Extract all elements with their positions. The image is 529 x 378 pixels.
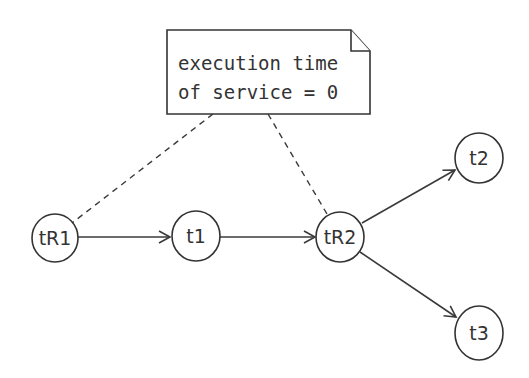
node-label-t2: t2: [469, 147, 489, 169]
note-line-2: of service = 0: [178, 81, 338, 103]
node-t3: t3: [455, 306, 503, 360]
node-t2: t2: [455, 133, 503, 183]
note: execution time of service = 0: [167, 30, 370, 114]
node-label-t3: t3: [469, 322, 489, 344]
diagram-canvas: execution time of service = 0 tR1 t1 tR2…: [0, 0, 529, 378]
node-tR1: tR1: [32, 214, 78, 262]
note-connector-tR2: [268, 114, 327, 214]
node-label-tR1: tR1: [39, 227, 72, 249]
node-t1: t1: [172, 211, 220, 261]
note-line-1: execution time: [178, 52, 338, 74]
node-label-t1: t1: [186, 225, 206, 247]
node-tR2: tR2: [316, 212, 364, 262]
note-connector-tR1: [72, 114, 213, 223]
node-label-tR2: tR2: [324, 226, 357, 248]
edge-tR2-t3: [360, 252, 456, 317]
edge-tR2-t2: [362, 170, 455, 223]
